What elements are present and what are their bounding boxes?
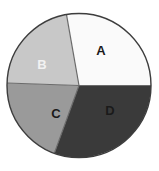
pie-chart-figure: ABCD: [0, 0, 159, 171]
pie-slice-a[interactable]: [67, 13, 152, 85]
pie-chart-svg: ABCD: [0, 0, 159, 171]
pie-slice-label-c: C: [51, 106, 61, 121]
pie-slice-label-a: A: [96, 43, 106, 58]
pie-slice-label-b: B: [37, 57, 46, 72]
pie-slice-label-d: D: [105, 103, 114, 118]
